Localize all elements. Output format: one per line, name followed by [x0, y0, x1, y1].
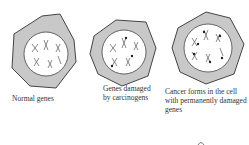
normal-genes-label: Normal genes — [12, 94, 54, 103]
damaged-genes-label: Genes damaged by carcinogens — [103, 84, 151, 102]
label-line: Genes damaged — [103, 84, 151, 93]
normal-cell — [8, 10, 80, 90]
label-line: with permanently damaged — [165, 96, 247, 105]
label-line: genes — [165, 105, 247, 114]
label-line: Cancer forms in the cell — [165, 87, 247, 96]
damaged-cell — [88, 14, 162, 90]
cancer-label: Cancer forms in the cell with permanentl… — [165, 87, 247, 114]
small-mark-icon — [197, 140, 205, 145]
cancer-cell — [168, 8, 248, 86]
label-line: by carcinogens — [103, 93, 151, 102]
